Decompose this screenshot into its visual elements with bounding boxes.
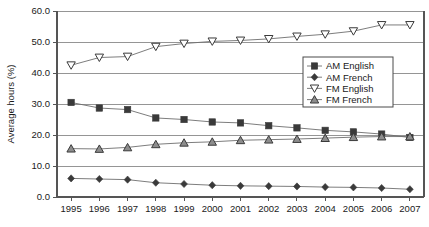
y-tick-label: 60.0 <box>32 5 51 16</box>
y-tick-labels-group: 0.010.020.030.040.050.060.0 <box>32 5 51 202</box>
x-tick-label: 1999 <box>173 203 194 214</box>
data-point <box>350 184 357 191</box>
x-tick-label: 2006 <box>371 203 392 214</box>
legend-label: AM French <box>326 72 372 83</box>
x-tick-label: 1995 <box>61 203 82 214</box>
x-tick-label: 2004 <box>315 203 336 214</box>
x-tick-label: 2005 <box>343 203 364 214</box>
legend-label: AM English <box>326 60 374 71</box>
x-tick-label: 2001 <box>230 203 251 214</box>
x-tick-label: 2007 <box>399 203 420 214</box>
legend: AM EnglishAM FrenchFM EnglishFM French <box>303 57 393 107</box>
data-point <box>237 120 243 126</box>
data-point <box>68 175 75 182</box>
data-point <box>124 176 131 183</box>
x-tick-label: 2000 <box>202 203 223 214</box>
data-point <box>209 119 215 125</box>
data-point <box>406 186 413 193</box>
data-point <box>152 43 160 50</box>
y-axis-title: Average hours (%) <box>5 64 16 143</box>
data-point <box>153 115 159 121</box>
y-tick-label: 20.0 <box>32 129 51 140</box>
data-point <box>322 183 329 190</box>
y-tick-label: 40.0 <box>32 67 51 78</box>
x-tick-label: 2002 <box>258 203 279 214</box>
series-am-french <box>68 175 414 193</box>
y-tick-label: 50.0 <box>32 36 51 47</box>
y-tick-label: 0.0 <box>37 191 50 202</box>
data-point <box>181 180 188 187</box>
data-point <box>378 184 385 191</box>
line-chart: 0.010.020.030.040.050.060.0 199519961997… <box>0 0 429 227</box>
data-point <box>209 182 216 189</box>
y-tick-label: 30.0 <box>32 98 51 109</box>
series-fm-french <box>67 133 414 153</box>
x-tick-label: 1996 <box>89 203 110 214</box>
legend-marker <box>311 63 317 69</box>
data-point <box>152 179 159 186</box>
legend-label: FM French <box>326 94 372 105</box>
chart-container: 0.010.020.030.040.050.060.0 199519961997… <box>0 0 429 227</box>
data-point <box>181 116 187 122</box>
data-point <box>265 183 272 190</box>
x-tick-label: 1998 <box>145 203 166 214</box>
data-point <box>96 105 102 111</box>
data-point <box>237 182 244 189</box>
x-tick-labels-group: 1995199619971998199920002001200220032004… <box>61 203 421 214</box>
data-point <box>68 99 74 105</box>
data-point <box>294 183 301 190</box>
data-point <box>322 127 328 133</box>
legend-label: FM English <box>326 83 374 94</box>
data-point <box>294 125 300 131</box>
data-point <box>124 106 130 112</box>
x-tick-label: 1997 <box>117 203 138 214</box>
data-point <box>67 62 75 69</box>
y-tick-label: 10.0 <box>32 160 51 171</box>
data-point <box>96 175 103 182</box>
data-point <box>266 123 272 129</box>
x-tick-label: 2003 <box>286 203 307 214</box>
